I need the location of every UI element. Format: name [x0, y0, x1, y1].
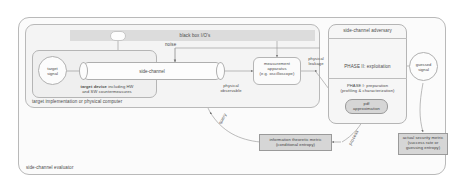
guessed-signal-node: guessed signal	[409, 52, 438, 81]
phase1-label-line2: (profiling & characterization)	[328, 89, 407, 94]
guessed-signal-label-line1: guessed	[416, 62, 431, 67]
target-signal-node: target signal	[38, 56, 67, 85]
adversary-divider-top	[328, 38, 407, 39]
pdf-approximation-label-line2: approximation	[345, 107, 388, 112]
sec-metric-label-line3: guessing entropy)	[398, 146, 448, 151]
side-channel-label: side-channel	[139, 69, 165, 74]
cylinder-cap-left	[79, 62, 88, 80]
side-channel-adversary-label: side-channel adversary	[328, 28, 407, 33]
adversary-divider-mid	[328, 78, 407, 79]
phase2-label: PHASE II: exploitation	[328, 64, 407, 69]
physical-observable-label-line2: observable	[208, 89, 254, 94]
target-signal-label-line1: target	[47, 66, 58, 71]
it-metric-label-line2: (conditional entropy)	[259, 143, 332, 148]
target-signal-label-line2: signal	[47, 71, 58, 76]
side-channel-evaluator-label: side-channel evaluator	[26, 165, 73, 170]
measurement-apparatus-label-line3: (e.g. oscilloscope)	[253, 72, 301, 77]
guessed-signal-label-line2: signal	[416, 67, 431, 72]
noise-label: noise	[165, 42, 176, 47]
diagram-canvas: black box I/O's target device including …	[0, 0, 462, 190]
side-channel-cylinder: side-channel	[82, 62, 222, 80]
cylinder-cap-right	[216, 62, 225, 80]
